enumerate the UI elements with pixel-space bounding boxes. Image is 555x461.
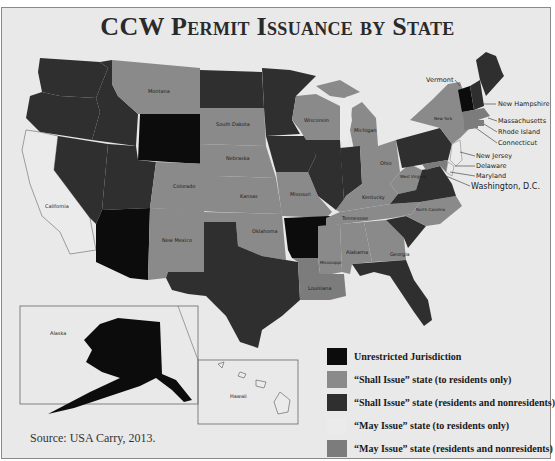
legend-label: “May Issue” state (residents and nonresi… [354,443,553,454]
legend-swatch [327,394,347,411]
state-washington [38,58,108,98]
label-kansas: Kansas [240,193,258,199]
state-new-jersey [450,140,462,166]
callout-new-jersey: New Jersey [476,152,512,160]
legend-swatch [327,417,347,434]
label-louisiana: Louisiana [308,285,332,291]
legend-label: “Shall Issue” state (residents and nonre… [354,397,555,408]
callout-rhode-island: Rhode Island [498,128,540,136]
label-hawaii: Hawaii [230,393,247,399]
label-oklahoma: Oklahoma [252,228,277,234]
legend-label: Unrestricted Jurisdiction [354,351,461,362]
state-arizona [96,208,150,280]
state-south-dakota [200,108,266,146]
callout-delaware: Delaware [476,162,507,170]
source-note: Source: USA Carry, 2013. [30,431,156,446]
label-alabama: Alabama [346,249,368,255]
label-wisconsin: Wisconsin [304,117,329,123]
label-ohio: Ohio [380,160,392,166]
state-florida [352,260,432,326]
state-michigan-up [316,80,360,98]
callout-maryland: Maryland [476,172,506,180]
label-michigan: Michigan [354,127,376,134]
legend-swatch [327,371,347,388]
state-rhode-island [478,120,484,126]
label-montana: Montana [148,88,170,94]
label-tennessee: Tennessee [341,215,368,221]
legend-swatch [327,348,347,365]
state-hawaii [218,362,290,414]
state-connecticut [464,120,478,130]
label-alaska: Alaska [50,330,66,336]
label-north-carolina: North Carolina [416,207,445,212]
callout-dc: Washington, D.C. [471,182,540,191]
callout-massachusetts: Massachusetts [498,117,547,125]
state-new-mexico [148,208,204,280]
label-colorado: Colorado [173,183,195,189]
state-michigan [350,102,378,150]
lake-michigan [340,96,352,148]
label-georgia: Georgia [390,251,410,258]
label-california: California [45,203,69,209]
state-wyoming [138,114,200,164]
hawaii-inset-frame [198,360,298,424]
state-alaska [48,318,192,414]
legend-label: “Shall Issue” state (to residents only) [354,374,511,385]
legend-swatch [327,440,347,457]
callout-new-hampshire: New Hampshire [498,100,549,108]
label-new-york: New York [434,116,453,121]
label-nebraska: Nebraska [226,155,250,161]
label-south-dakota: South Dakota [216,121,250,127]
state-north-dakota [200,70,264,108]
label-kentucky: Kentucky [362,194,385,201]
callout-vermont: Vermont [426,76,454,84]
label-missouri: Missouri [290,191,311,197]
callout-connecticut: Connecticut [498,139,537,147]
state-mississippi [318,224,342,274]
label-mississippi: Mississippi [320,260,341,265]
us-map: Montana California Colorado New Mexico S… [0,0,555,461]
label-new-mexico: New Mexico [162,237,192,243]
legend-label: “May Issue” state (to residents only) [354,420,509,431]
label-west-virginia: West Virginia [400,174,427,179]
